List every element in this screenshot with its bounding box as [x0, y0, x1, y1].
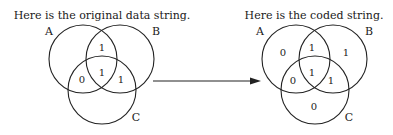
region-ac: 0 [290, 75, 296, 86]
label-a: A [255, 25, 265, 38]
label-a: A [44, 25, 54, 38]
label-b: B [365, 25, 373, 38]
region-c-only: 0 [311, 101, 317, 112]
region-abc: 1 [309, 67, 315, 78]
region-ac: 0 [79, 74, 85, 85]
coded-data-venn: Here is the coded string. A B C 0 1 1 1 … [245, 9, 384, 124]
original-data-venn: Here is the original data string. A B C … [14, 9, 191, 124]
region-b-only: 1 [343, 47, 349, 58]
label-c: C [345, 111, 353, 124]
venn-coding-diagram: Here is the original data string. A B C … [0, 0, 393, 135]
region-ab: 1 [99, 42, 105, 53]
region-bc: 1 [118, 74, 124, 85]
region-bc: 1 [328, 75, 334, 86]
transform-arrow [153, 78, 261, 85]
arrow-head-icon [250, 78, 261, 85]
label-c: C [132, 111, 140, 124]
region-abc: 1 [99, 67, 105, 78]
coded-title: Here is the coded string. [245, 9, 384, 22]
region-ab: 1 [309, 42, 315, 53]
label-b: B [152, 25, 160, 38]
original-title: Here is the original data string. [14, 9, 191, 22]
region-a-only: 0 [280, 47, 286, 58]
